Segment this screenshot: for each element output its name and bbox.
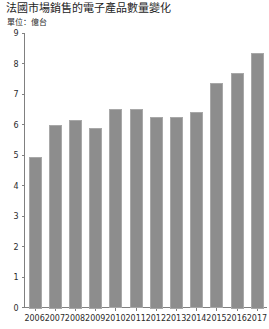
bar-chart: 法國市場銷售的電子產品數量變化 單位：億台 0123456789 2006200… [0,0,269,329]
x-tick-label: 2012 [146,314,166,323]
x-tick-label: 2017 [247,314,267,323]
chart-canvas: 0123456789 20062007200820092010201120122… [0,0,269,329]
bar-series [30,54,264,309]
y-tick-label: 9 [13,29,18,38]
bar [110,110,122,308]
bar [90,129,102,309]
x-tick-label: 2008 [65,314,85,323]
x-tick-label: 2006 [24,314,44,323]
x-tick-group: 2006200720082009201020112012201320142015… [24,308,267,323]
bar [30,158,42,309]
x-axis: 2006200720082009201020112012201320142015… [24,308,267,323]
y-axis: 0123456789 [13,29,24,313]
x-tick-label: 2007 [45,314,65,323]
bar [151,118,163,309]
x-tick-label: 2016 [227,314,247,323]
x-tick-label: 2014 [186,314,206,323]
y-tick-label: 5 [13,151,18,160]
bar [70,121,82,309]
y-tick-label: 0 [13,304,18,313]
plot-area: 0123456789 20062007200820092010201120122… [0,0,269,329]
y-tick-label: 2 [13,243,18,252]
x-tick-label: 2015 [206,314,226,323]
x-tick-label: 2011 [125,314,145,323]
bar [50,126,62,309]
bar [232,74,244,309]
bar [131,110,143,308]
bar [252,54,264,309]
y-tick-label: 6 [13,121,18,130]
bar [211,84,223,308]
x-tick-label: 2009 [85,314,105,323]
y-tick-group: 0123456789 [13,29,24,313]
y-tick-label: 1 [13,273,18,282]
x-tick-label: 2013 [166,314,186,323]
bar [191,113,203,308]
x-tick-label: 2010 [105,314,125,323]
bar [171,118,183,309]
y-tick-label: 7 [13,90,18,99]
y-tick-label: 8 [13,60,18,69]
y-tick-label: 3 [13,212,18,221]
y-tick-label: 4 [13,182,18,191]
